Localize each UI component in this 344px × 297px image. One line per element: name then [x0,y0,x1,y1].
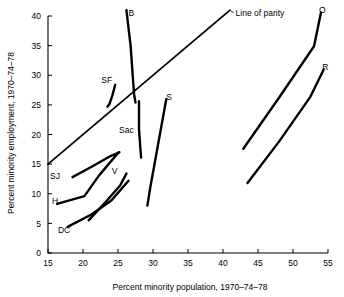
y-axis-title: Percent minority employment, 1970–74–78 [6,52,16,214]
y-tick-label: 15 [32,159,42,169]
series-label-h: H [52,196,58,206]
y-tick-label: 0 [36,248,41,258]
y-tick-label: 5 [36,219,41,229]
series-path-s [147,99,166,206]
annotations-group: Line of parity [231,8,285,18]
scatter-line-plot: 1520253035404550550510152025303540 BSFSa… [0,0,344,297]
x-tick-label: 25 [113,258,123,268]
x-tick-label: 40 [218,258,228,268]
series-label-b: B [128,8,134,18]
x-tick-label: 35 [183,258,193,268]
x-axis-title: Percent minority population, 1970–74–78 [113,282,268,292]
series-label-s: S [166,92,172,102]
y-tick-label: 25 [32,100,42,110]
y-tick-label: 20 [32,130,42,140]
series-path-o [243,12,321,148]
series-label-o: O [319,5,326,15]
series-label-v: V [112,166,118,176]
x-tick-label: 55 [323,258,333,268]
x-tick-label: 50 [288,258,298,268]
x-tick-label: 15 [43,258,53,268]
y-tick-label: 30 [32,70,42,80]
series-path-b [126,10,135,102]
x-tick-label: 30 [148,258,158,268]
series-label-sac: Sac [119,125,134,135]
series-label-sj: SJ [50,171,60,181]
chart-container: 1520253035404550550510152025303540 BSFSa… [0,0,344,297]
series-labels-group: BSFSacSSJHVDCOR [50,5,328,235]
y-tick-label: 10 [32,189,42,199]
annotation-leader-line [231,11,234,12]
x-tick-label: 20 [78,258,88,268]
series-label-r: R [322,62,328,72]
series-label-sf: SF [101,75,112,85]
series-label-dc: DC [58,225,70,235]
x-tick-label: 45 [253,258,263,268]
series-path-sf [108,85,116,107]
y-tick-label: 35 [32,41,42,51]
series-path-sac [139,101,141,157]
y-tick-label: 40 [32,11,42,21]
annotation-label-line-of-parity: Line of parity [236,8,285,18]
